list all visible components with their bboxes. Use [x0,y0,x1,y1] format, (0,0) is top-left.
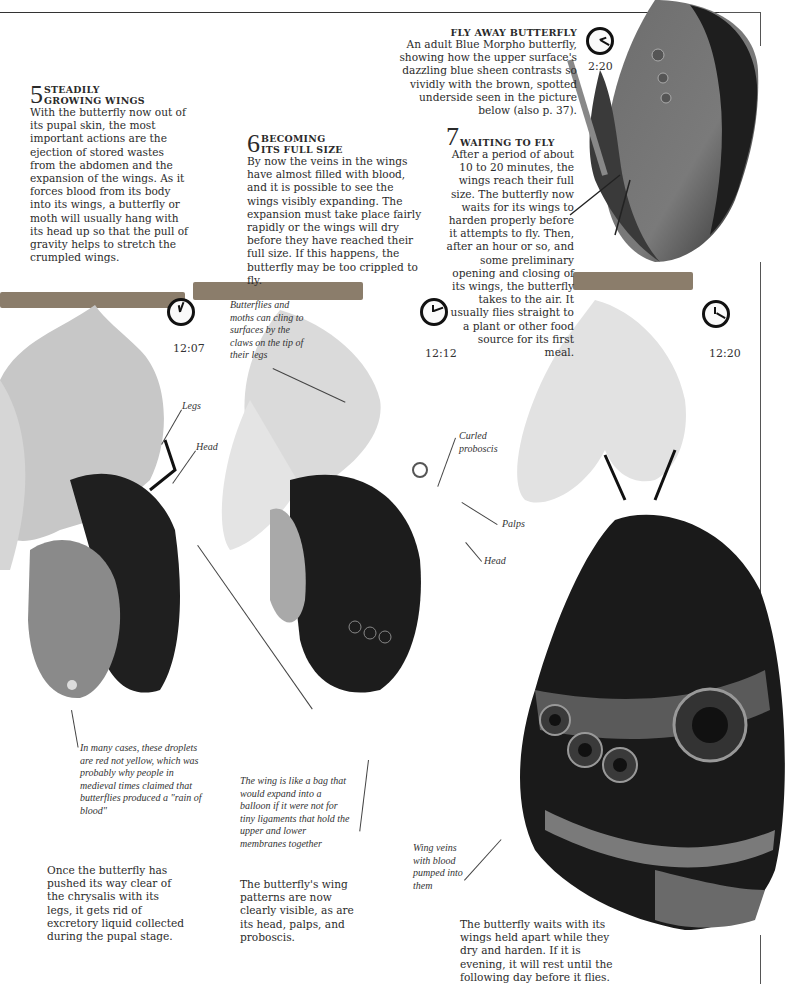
step-5-time: 12:07 [173,342,205,355]
step-7-title: WAITING TO FLY [460,138,555,149]
step-7-bottom-text: The butterfly waits with its wings held … [460,918,615,984]
right-rule-top [760,12,761,46]
step-5-text: With the butterfly now out of its pupal … [30,106,190,264]
feature-title: FLY AWAY BUTTERFLY [385,27,577,38]
step-7-time: 12:20 [709,347,741,360]
step-7-number: 7 [446,126,459,148]
clock-icon [702,300,730,328]
clock-icon [420,298,448,326]
label-droplets: In many cases, these droplets are red no… [80,742,210,818]
step-5-title-line1: STEADILY [44,84,100,95]
stage-5-chrysalis-image [0,300,220,700]
label-head: Head [196,441,218,454]
step-6-section: 6 BECOMING ITS FULL SIZE By now the vein… [247,133,452,287]
step-6-number: 6 [247,133,260,155]
adult-time: 2:20 [588,60,613,73]
label-wing-bag: The wing is like a bag that would expand… [240,775,350,851]
step-7-section: 7 WAITING TO FLY After a period of about… [446,126,601,359]
label-wing-veins: Wing veins with blood pumped into them [413,842,473,892]
step-5-section: 5 STEADILY GROWING WINGS With the butter… [30,84,200,264]
step-6-heading: 6 BECOMING ITS FULL SIZE [247,133,452,155]
feature-text: An adult Blue Morpho butterfly, showing … [385,38,577,117]
step-5-bottom-text: Once the butterfly has pushed its way cl… [47,864,187,943]
stage-7-butterfly-image [505,290,791,950]
leader-line [71,710,79,748]
clock-icon [586,27,614,55]
step-6-time: 12:12 [425,347,457,360]
feature-caption: FLY AWAY BUTTERFLY An adult Blue Morpho … [385,27,577,117]
step-6-title-line1: BECOMING [261,133,325,144]
step-7-text: After a period of about 10 to 20 minutes… [446,148,574,359]
label-head-2: Head [484,555,506,568]
clock-icon [167,298,195,326]
step-5-number: 5 [30,84,43,106]
step-6-title-line2: ITS FULL SIZE [261,144,343,155]
step-5-title-line2: GROWING WINGS [44,95,145,106]
label-claws: Butterflies and moths can cling to surfa… [230,299,310,362]
label-curled-proboscis: Curled proboscis [459,430,519,455]
label-legs: Legs [182,400,201,413]
step-7-heading: 7 WAITING TO FLY [446,126,601,148]
step-6-text: By now the veins in the wings have almos… [247,155,427,287]
step-5-heading: 5 STEADILY GROWING WINGS [30,84,200,106]
step-6-bottom-text: The butterfly's wing patterns are now cl… [240,878,365,944]
label-palps: Palps [502,518,525,531]
leader-line [359,760,369,832]
